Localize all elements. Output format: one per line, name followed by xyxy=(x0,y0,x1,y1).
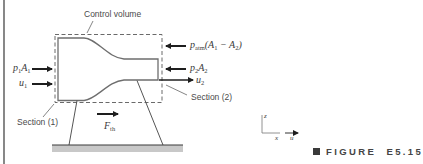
u1-label: u1 xyxy=(19,78,27,90)
control-volume-leader xyxy=(87,21,93,33)
u2-label: u2 xyxy=(196,75,204,87)
thrust-label: Fth xyxy=(104,121,115,133)
caption-number: E5.15 xyxy=(386,146,423,157)
ground-hatch xyxy=(52,145,183,152)
section-2-label: Section (2) xyxy=(191,93,232,102)
section-1-leader xyxy=(43,104,54,117)
figure-caption: FIGURE E5.15 xyxy=(313,147,423,157)
section-1-label: Section (1) xyxy=(17,118,58,127)
x-axis-label: x xyxy=(275,135,278,142)
z-axis-label: z xyxy=(264,113,267,120)
caption-square-icon xyxy=(313,148,320,155)
control-volume-boundary xyxy=(55,35,162,103)
control-volume-label: Control volume xyxy=(84,10,141,19)
nozzle-outline xyxy=(58,38,158,101)
u-axis-label: u xyxy=(290,135,294,142)
p1A1-label: p1A1 xyxy=(13,63,31,75)
section-2-leader xyxy=(166,85,187,95)
right-support xyxy=(137,81,163,146)
patm-label: patm(A1 − A2) xyxy=(190,40,242,52)
caption-prefix: FIGURE xyxy=(326,146,376,157)
p2A2-label: p2A2 xyxy=(190,63,208,75)
left-support xyxy=(69,101,77,146)
